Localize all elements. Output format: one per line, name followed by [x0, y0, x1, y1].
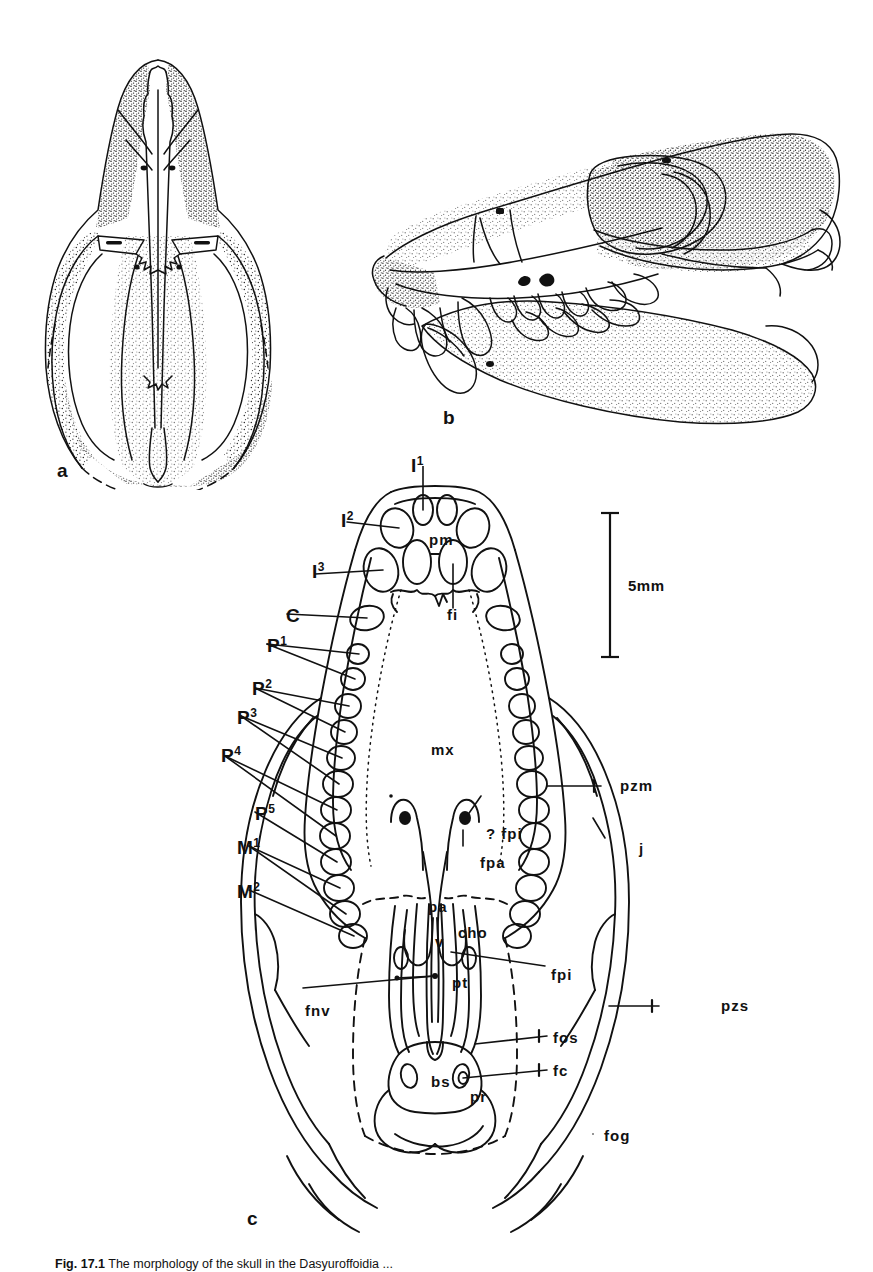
anat-label-pm: pm	[429, 532, 454, 547]
anat-label-cho: cho	[458, 925, 488, 940]
anat-label-mx: mx	[431, 742, 455, 757]
anat-label-fnv: fnv	[305, 1003, 331, 1018]
anat-label-pzm: pzm	[620, 778, 653, 793]
panel-b-artwork	[362, 112, 862, 427]
panel-c-ventral-skull	[195, 466, 675, 1246]
caption-prefix: Fig. 17.1	[55, 1257, 105, 1271]
figure-plate: a	[0, 0, 873, 1272]
panel-c-artwork	[225, 466, 659, 1232]
figure-caption: Fig. 17.1 The morphology of the skull in…	[55, 1256, 845, 1272]
panel-b-lateral-skull	[362, 112, 862, 427]
anat-label-fog: fog	[604, 1128, 630, 1143]
tooth-label-i1: I1	[411, 455, 424, 475]
tooth-label-p3: P3	[237, 707, 257, 727]
anat-label-question-fpi: ? fpi	[486, 826, 523, 841]
anat-label-bs: bs	[431, 1074, 451, 1089]
tooth-label-m2: M2	[237, 881, 261, 901]
tooth-label-p4: P4	[221, 745, 241, 765]
panel-label-b: b	[443, 408, 455, 427]
tooth-label-p1: P1	[267, 635, 287, 655]
panel-label-c: c	[247, 1209, 258, 1228]
tooth-label-i3: I3	[312, 561, 325, 581]
anat-label-fi: fi	[447, 607, 458, 622]
panel-a-dorsal-skull	[40, 50, 340, 490]
tooth-sockets-left	[320, 495, 433, 948]
caption-text: The morphology of the skull in the Dasyu…	[108, 1257, 393, 1271]
tooth-label-i2: I2	[341, 510, 354, 530]
anat-label-v: v	[435, 934, 444, 949]
anat-label-fpa: fpa	[480, 855, 506, 870]
tooth-sockets-right	[437, 495, 550, 948]
anat-label-pr: pr	[470, 1089, 487, 1104]
tooth-label-m1: M1	[237, 837, 261, 857]
anat-label-pzs: pzs	[721, 998, 749, 1013]
anat-label-j: j	[639, 841, 644, 856]
anat-label-pa: pa	[428, 899, 448, 914]
panel-label-a: a	[57, 461, 68, 480]
tooth-label-p2: P2	[252, 678, 272, 698]
anat-label-fpi: fpi	[551, 967, 572, 982]
panel-a-artwork	[40, 50, 340, 490]
anat-label-pt: pt	[452, 975, 468, 990]
tooth-label-c: C	[286, 605, 300, 625]
anat-label-fos: fos	[553, 1030, 579, 1045]
tooth-label-p5: P5	[255, 803, 275, 823]
anat-label-fc: fc	[553, 1063, 568, 1078]
